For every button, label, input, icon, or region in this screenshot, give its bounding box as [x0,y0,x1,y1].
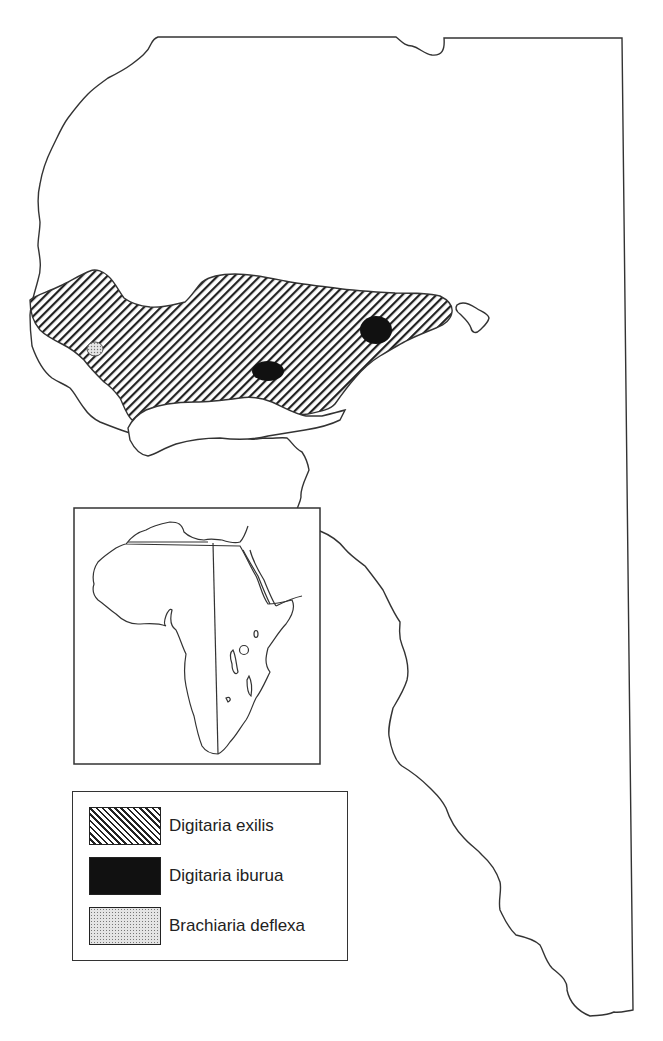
stipple-swatch-icon [89,907,161,945]
solid-swatch-icon [89,857,161,895]
legend-label: Digitaria iburua [169,866,283,886]
legend-item-brachiaria-deflexa: Brachiaria deflexa [89,906,305,946]
legend-item-digitaria-iburua: Digitaria iburua [89,856,283,896]
digitaria-iburua-spot [360,316,392,344]
legend-label: Brachiaria deflexa [169,916,305,936]
legend-item-digitaria-exilis: Digitaria exilis [89,806,274,846]
inset-frame [74,508,320,764]
hatch-swatch-icon [89,807,161,845]
legend: Digitaria exilis Digitaria iburua Brachi… [72,791,348,961]
brachiaria-deflexa-spot [87,342,103,356]
legend-label: Digitaria exilis [169,816,274,836]
digitaria-iburua-spot [252,361,284,381]
